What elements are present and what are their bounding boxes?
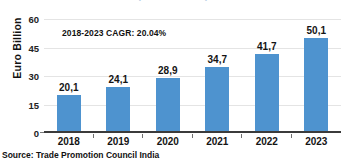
bar-value-label: 41,7 [257, 41, 276, 52]
bar-value-label: 50,1 [307, 25, 326, 36]
bar-2020[interactable] [156, 78, 180, 133]
x-tick-label-2020: 2020 [143, 136, 193, 147]
cagr-annotation: 2018-2023 CAGR: 20.04% [62, 28, 166, 38]
bar-value-label: 28,9 [158, 65, 177, 76]
y-tick-label-15: 15 [0, 99, 39, 110]
bar-value-label: 20,1 [59, 82, 78, 93]
source-note: Source: Trade Promotion Council India [2, 150, 159, 160]
bar-slot-2021: 34,7 [193, 19, 243, 133]
bar-slot-2023: 50,1 [292, 19, 342, 133]
bar-slot-2022: 41,7 [242, 19, 292, 133]
x-tick-label-2021: 2021 [193, 136, 243, 147]
x-tick-label-2022: 2022 [242, 136, 292, 147]
bar-2021[interactable] [205, 67, 229, 133]
y-tick-label-30: 30 [0, 71, 39, 82]
chart-title-clipped: (in Euro Billion) [0, 0, 346, 5]
x-tick-label-2019: 2019 [94, 136, 144, 147]
bar-2018[interactable] [57, 95, 81, 133]
bar-2023[interactable] [304, 38, 328, 133]
chart-container: (in Euro Billion) Euro Billion 60 45 30 … [0, 0, 346, 163]
x-tick-label-2018: 2018 [44, 136, 94, 147]
bar-value-label: 24,1 [109, 74, 128, 85]
bar-2019[interactable] [106, 87, 130, 133]
x-axis-labels: 2018 2019 2020 2021 2022 2023 [44, 136, 341, 147]
bar-2022[interactable] [255, 54, 279, 133]
y-tick-label-45: 45 [0, 42, 39, 53]
y-tick-label-60: 60 [0, 14, 39, 25]
chart-title-text: (in Euro Billion) [0, 0, 346, 1]
y-tick-label-0: 0 [0, 128, 39, 139]
bar-value-label: 34,7 [208, 54, 227, 65]
x-axis-line [44, 131, 341, 133]
x-tick-label-2023: 2023 [292, 136, 342, 147]
